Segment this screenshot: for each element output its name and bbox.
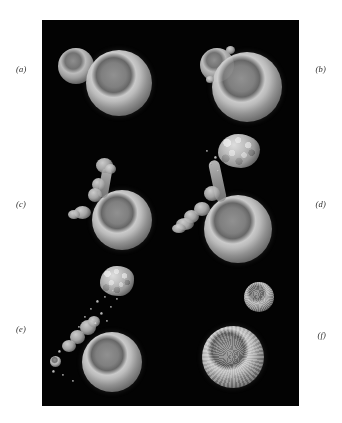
debris-particle-d-2	[210, 163, 212, 165]
protrusion-lobe-c-4	[88, 188, 102, 202]
panel-label-f: (f)	[317, 331, 326, 340]
protrusion-lobe-c-2	[105, 164, 116, 174]
panel-f-specimen	[182, 260, 299, 406]
debris-particle-e-7	[94, 322, 97, 325]
debris-particle-d-3	[217, 170, 219, 172]
debris-particle-e-2	[104, 296, 106, 298]
panel-label-d: (d)	[315, 200, 326, 209]
margin-lobe-d-4	[172, 224, 186, 233]
panel-a-specimen	[42, 20, 170, 140]
bleb-stalk-d	[208, 159, 227, 202]
debris-particle-d-4	[206, 150, 208, 152]
detached-apoptotic-body-e	[100, 266, 134, 296]
cell-body-d	[204, 195, 272, 263]
debris-particle-e-4	[100, 312, 103, 315]
debris-particle-e-9	[116, 298, 118, 300]
cell-body-e	[82, 332, 142, 392]
apoptotic-body-f-large	[202, 326, 264, 388]
debris-particle-e-14	[72, 380, 74, 382]
margin-lobe-d-3	[176, 218, 194, 230]
panel-label-e: (e)	[16, 325, 26, 334]
panel-label-a: (a)	[16, 65, 27, 74]
cell-small-b	[200, 48, 234, 82]
debris-particle-e-15	[112, 290, 114, 292]
cell-large-a	[86, 50, 152, 116]
basal-lobe-c	[74, 206, 91, 219]
protrusion-tip-lobe-c	[96, 158, 113, 173]
panel-d-specimen	[170, 130, 299, 280]
cell-body-c	[92, 190, 152, 250]
debris-particle-e-10	[78, 326, 80, 328]
debris-particle-e-3	[90, 308, 92, 310]
debris-particle-e-12	[52, 370, 55, 373]
margin-lobe-e-1	[80, 320, 96, 335]
debris-particle-e-11	[58, 350, 61, 353]
basal-lobe-c-2	[68, 210, 80, 219]
cell-small-a	[58, 48, 94, 84]
cell-large-b	[212, 52, 282, 122]
debris-particle-e-13	[62, 374, 64, 376]
panel-e-specimen	[48, 260, 170, 406]
debris-particle-e-6	[84, 316, 86, 318]
apoptotic-body-f-small	[244, 282, 274, 312]
panel-b-specimen	[170, 20, 299, 140]
panel-c-specimen	[52, 140, 170, 275]
debris-particle-e-5	[110, 306, 112, 308]
margin-lobe-d-2	[184, 210, 199, 223]
margin-lobe-e-2	[70, 330, 85, 344]
margin-lobe-e-4	[88, 316, 100, 327]
debris-particle-e-1	[96, 300, 99, 303]
margin-lobe-e-3	[62, 340, 76, 352]
panel-label-b: (b)	[315, 65, 326, 74]
debris-particle-d-1	[214, 156, 217, 159]
margin-lobe-d-1	[194, 202, 210, 216]
panel-label-c: (c)	[16, 200, 26, 209]
vesicle-e-large	[50, 356, 61, 367]
bleb-base-lobe-d	[204, 186, 220, 201]
figure-container: (a) (c) (e) (b) (d) (f)	[0, 0, 342, 423]
micrograph-plate	[42, 20, 299, 406]
debris-particle-e-8	[106, 320, 108, 322]
apoptotic-bleb-d	[218, 134, 260, 168]
cell-junction-lobe-b	[226, 46, 235, 54]
protrusion-stalk-c	[97, 167, 112, 198]
cell-margin-lobe-b	[206, 76, 214, 83]
protrusion-lobe-c-3	[92, 178, 105, 191]
